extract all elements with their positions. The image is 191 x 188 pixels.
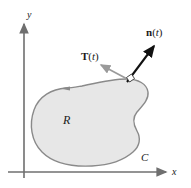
vector-field-figure: y x R C T(t) n(t) (0, 0, 191, 188)
x-axis-label: x (172, 167, 176, 177)
tangent-paren-close: ) (95, 50, 99, 62)
normal-paren-close: ) (159, 26, 163, 38)
normal-vector-label: n(t) (146, 27, 163, 38)
y-axis-label: y (27, 10, 31, 20)
tangent-vector-arrow (101, 65, 131, 81)
tangent-vector-label: T(t) (81, 51, 99, 62)
region-label-r: R (63, 114, 70, 126)
region-r-boundary-curve (31, 79, 148, 166)
curve-label-c: C (141, 152, 148, 163)
